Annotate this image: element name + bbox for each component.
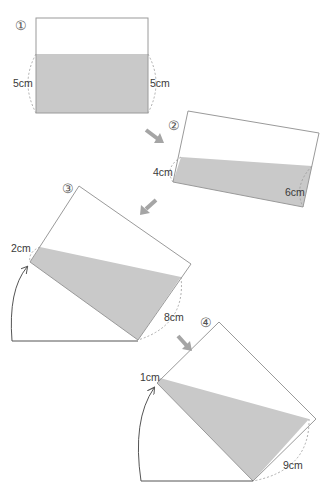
arrow-1-to-2 bbox=[146, 130, 164, 143]
water-fill-1 bbox=[36, 54, 148, 113]
arrow-3-to-4 bbox=[178, 336, 192, 351]
step-marker-2: ② bbox=[168, 119, 180, 132]
dimension-label-left-3: 2cm bbox=[11, 243, 31, 254]
arrow-2-to-3 bbox=[140, 200, 156, 215]
step-marker-3: ③ bbox=[62, 182, 74, 195]
dimension-label-right-1: 5cm bbox=[150, 78, 170, 89]
rotation-arrow-4 bbox=[138, 388, 154, 481]
diagram-canvas bbox=[0, 0, 322, 492]
step-marker-1: ① bbox=[15, 19, 27, 32]
rotation-arrow-3 bbox=[11, 267, 27, 341]
figure-4 bbox=[138, 322, 316, 481]
dimension-label-left-4: 1cm bbox=[140, 372, 160, 383]
dimension-label-left-1: 5cm bbox=[13, 78, 33, 89]
dimension-label-right-4: 9cm bbox=[283, 460, 303, 471]
figure-1 bbox=[28, 18, 156, 113]
dimension-label-right-3: 8cm bbox=[164, 312, 184, 323]
water-fill-2 bbox=[173, 157, 312, 207]
step-marker-4: ④ bbox=[200, 316, 212, 329]
dimension-label-right-2: 6cm bbox=[285, 187, 305, 198]
dimension-label-left-2: 4cm bbox=[153, 167, 173, 178]
water-fill-3 bbox=[30, 247, 181, 340]
